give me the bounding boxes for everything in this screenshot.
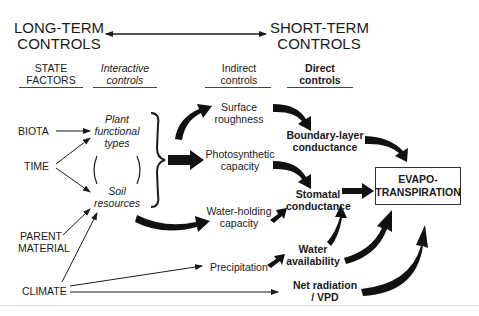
label-line: capacity (203, 217, 275, 229)
underline (19, 87, 83, 88)
label-plant-functional-types: Plant functional types (94, 113, 140, 149)
label-line: roughness (210, 113, 268, 125)
column-line: controls (92, 74, 158, 86)
label-line: PARENT (18, 230, 64, 242)
label-line: conductance (284, 141, 366, 153)
label-net-radiation-vpd: Net radiation / VPD (290, 279, 360, 303)
left-paren (94, 156, 97, 184)
curly-brace (151, 113, 165, 207)
column-line: STATE (18, 62, 84, 74)
label-line: conductance (286, 200, 350, 212)
header-line: CONTROLS (270, 36, 368, 52)
column-line: Indirect (206, 62, 272, 74)
label-boundary-layer-conductance: Boundary-layer conductance (284, 129, 366, 153)
label-line: Stomatal (286, 188, 350, 200)
column-line: controls (287, 74, 353, 86)
label-line: MATERIAL (18, 242, 64, 254)
long-term-controls-header: LONG-TERM CONTROLS (14, 20, 104, 52)
short-term-controls-header: SHORT-TERM CONTROLS (270, 20, 368, 52)
label-photosynthetic-capacity: Photosynthetic capacity (202, 148, 278, 172)
right-paren (137, 156, 140, 184)
label-line: Photosynthetic (202, 148, 278, 160)
label-precipitation: Precipitation (210, 261, 268, 273)
caption-divider (0, 305, 479, 306)
column-direct-controls: Direct controls (287, 62, 353, 86)
label-line: Surface (210, 101, 268, 113)
underline (205, 87, 271, 88)
label-parent-material: PARENT MATERIAL (18, 230, 64, 254)
column-line: Direct (287, 62, 353, 74)
label-line: Water (283, 243, 343, 255)
column-line: Interactive (92, 62, 158, 74)
column-indirect-controls: Indirect controls (206, 62, 272, 86)
outcome-line: TRANSPIRATION (375, 186, 461, 199)
label-line: availability (283, 255, 343, 267)
label-line: resources (94, 197, 140, 209)
label-line: Plant (94, 113, 140, 125)
label-line: Net radiation (290, 279, 360, 291)
header-line: SHORT-TERM (270, 20, 368, 36)
header-line: CONTROLS (14, 36, 104, 52)
label-climate: CLIMATE (22, 285, 67, 297)
label-surface-roughness: Surface roughness (210, 101, 268, 125)
underline (287, 87, 353, 88)
header-line: LONG-TERM (14, 20, 104, 36)
label-line: functional (94, 125, 140, 137)
label-soil-resources: Soil resources (94, 185, 140, 209)
time-to-soil-arrow (56, 168, 90, 192)
parent-material-to-soil-arrow (63, 209, 90, 235)
label-line: capacity (202, 160, 278, 172)
label-time: TIME (24, 160, 49, 172)
underline (93, 87, 157, 88)
label-line: Boundary-layer (284, 129, 366, 141)
column-line: controls (206, 74, 272, 86)
evapotranspiration-box: EVAPO- TRANSPIRATION (375, 167, 461, 205)
outcome-line: EVAPO- (375, 173, 461, 186)
column-line: FACTORS (18, 74, 84, 86)
label-biota: BIOTA (18, 125, 49, 137)
label-line: Water-holding (203, 205, 275, 217)
label-line: Soil (94, 185, 140, 197)
column-state-factors: STATE FACTORS (18, 62, 84, 86)
label-water-availability: Water availability (283, 243, 343, 267)
label-line: types (94, 137, 140, 149)
column-interactive-controls: Interactive controls (92, 62, 158, 86)
label-water-holding-capacity: Water-holding capacity (203, 205, 275, 229)
climate-to-precipitation-arrow (70, 266, 202, 286)
label-stomatal-conductance: Stomatal conductance (286, 188, 350, 212)
time-to-plant-arrow (56, 138, 90, 164)
label-line: / VPD (290, 291, 360, 303)
